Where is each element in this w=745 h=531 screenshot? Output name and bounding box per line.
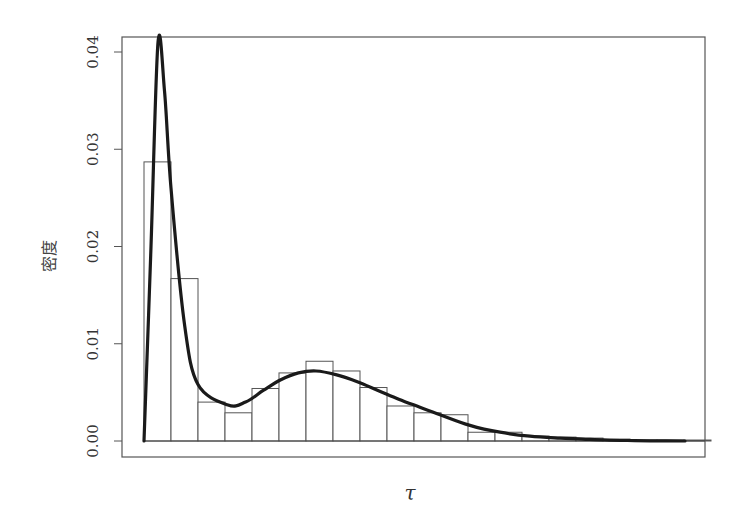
plot-border xyxy=(122,37,705,457)
y-tick-label: 0.02 xyxy=(84,230,102,263)
y-tick-label: 0.04 xyxy=(84,35,102,68)
histogram-bar xyxy=(414,413,441,441)
x-axis-label: τ xyxy=(404,481,416,505)
histogram-bar xyxy=(387,406,414,441)
histogram-bar xyxy=(171,279,198,441)
y-tick-label: 0.01 xyxy=(84,327,102,360)
density-curve xyxy=(144,35,685,441)
histogram-chart: 0.000.010.020.030.04 密度 τ xyxy=(0,0,745,531)
y-tick-label: 0.00 xyxy=(84,424,102,457)
histogram-bar xyxy=(225,413,252,441)
y-tick-label: 0.03 xyxy=(84,133,102,166)
plot-frame xyxy=(122,37,705,457)
y-axis: 0.000.010.020.030.04 xyxy=(84,35,122,457)
y-axis-label: 密度 xyxy=(40,240,59,272)
histogram-bar xyxy=(468,432,495,441)
histogram-bar xyxy=(279,373,306,441)
histogram-bar xyxy=(360,388,387,441)
histogram-bar xyxy=(198,402,225,441)
histogram-bars xyxy=(144,162,711,441)
